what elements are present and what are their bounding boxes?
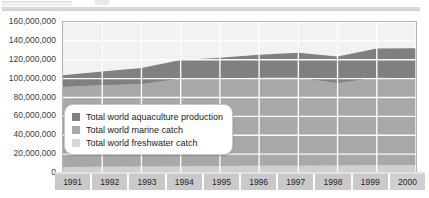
y-axis-tick-label: 120,000,000 bbox=[9, 54, 56, 64]
chart-legend: Total world aquaculture production Total… bbox=[64, 104, 233, 155]
legend-item-freshwater: Total world freshwater catch bbox=[72, 136, 223, 149]
x-axis-tick-label: 1992 bbox=[92, 174, 129, 190]
x-axis-tick-label: 1996 bbox=[241, 174, 278, 190]
x-axis-tick-label: 1998 bbox=[315, 174, 352, 190]
legend-label-marine: Total world marine catch bbox=[86, 125, 183, 135]
toolbar-fragment bbox=[2, 1, 72, 6]
legend-swatch-freshwater bbox=[72, 139, 80, 147]
y-axis-tick-label: 80,000,000 bbox=[13, 92, 56, 102]
legend-swatch-marine bbox=[72, 126, 80, 134]
x-axis-tick-label: 1993 bbox=[129, 174, 166, 190]
x-axis-tick-label: 1994 bbox=[167, 174, 204, 190]
legend-item-marine: Total world marine catch bbox=[72, 123, 223, 136]
y-axis-tick-label: 40,000,000 bbox=[13, 129, 56, 139]
x-axis-tick-label: 1995 bbox=[204, 174, 241, 190]
x-axis-tick-label: 1997 bbox=[278, 174, 315, 190]
y-axis-tick-label: 160,000,000 bbox=[9, 16, 56, 26]
x-axis-tick-label: 1991 bbox=[55, 174, 92, 190]
legend-swatch-aquaculture bbox=[72, 113, 80, 121]
y-axis-tick-label: 140,000,000 bbox=[9, 35, 56, 45]
x-axis-tick-label: 1999 bbox=[353, 174, 390, 190]
x-axis-tick-label: 2000 bbox=[390, 174, 425, 190]
legend-item-aquaculture: Total world aquaculture production bbox=[72, 110, 223, 123]
legend-label-aquaculture: Total world aquaculture production bbox=[86, 112, 223, 122]
y-axis: 160,000,000140,000,000120,000,000100,000… bbox=[0, 14, 58, 174]
legend-label-freshwater: Total world freshwater catch bbox=[86, 138, 198, 148]
x-axis: 1991199219931994199519961997199819992000 bbox=[55, 174, 425, 190]
y-axis-tick-label: 100,000,000 bbox=[9, 73, 56, 83]
y-axis-tick-label: 60,000,000 bbox=[13, 110, 56, 120]
header-divider bbox=[2, 7, 420, 11]
stacked-area-chart: 160,000,000140,000,000120,000,000100,000… bbox=[0, 0, 429, 198]
toolbar-fragment-secondary bbox=[95, 0, 109, 5]
y-axis-tick-label: 20,000,000 bbox=[13, 148, 56, 158]
